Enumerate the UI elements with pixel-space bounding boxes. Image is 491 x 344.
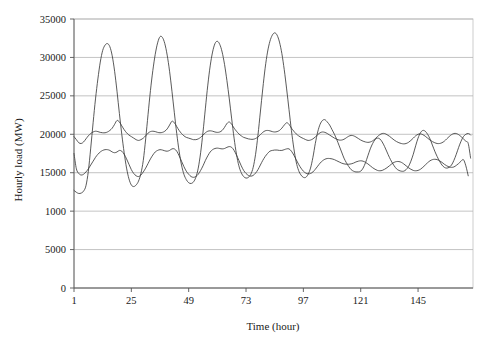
x-tick-label: 25 — [126, 295, 137, 306]
series-line — [74, 120, 471, 158]
x-tick-label: 1 — [71, 295, 76, 306]
y-axis: 0500010001500020000250003000035000 — [40, 14, 74, 294]
x-tick-label: 121 — [353, 295, 369, 306]
y-tick-label: 20000 — [40, 129, 66, 140]
y-tick-label: 30000 — [40, 52, 66, 63]
chart-canvas: 0500010001500020000250003000035000 12549… — [0, 0, 491, 344]
x-axis-title: Time (hour) — [246, 320, 299, 333]
x-tick-label: 73 — [241, 295, 252, 306]
x-tick-label: 145 — [410, 295, 426, 306]
y-tick-label: 15000 — [40, 167, 66, 178]
y-tick-label: 5000 — [45, 244, 66, 255]
chart-figure: 0500010001500020000250003000035000 12549… — [0, 0, 491, 344]
y-tick-label: 1000 — [45, 206, 66, 217]
y-tick-label: 0 — [61, 283, 66, 294]
y-axis-title: Hourly load (MW) — [12, 118, 25, 201]
x-axis: 125497397121145 — [71, 288, 473, 306]
x-tick-label: 49 — [183, 295, 194, 306]
y-tick-label: 35000 — [40, 14, 66, 25]
axis-titles: Hourly load (MW) Time (hour) — [12, 118, 300, 333]
y-tick-label: 25000 — [40, 90, 66, 101]
data-series-layer — [74, 33, 471, 194]
x-tick-label: 97 — [298, 295, 309, 306]
